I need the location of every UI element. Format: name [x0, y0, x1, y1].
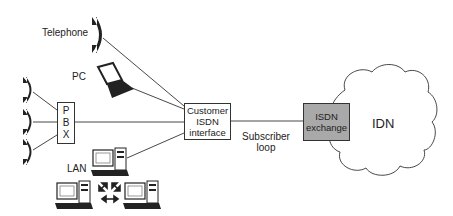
pbx-phone-3-link — [33, 135, 57, 150]
pc-link — [132, 88, 184, 109]
pbx-phone-icon-3 — [23, 139, 32, 165]
customer-interface-line-1: Customer — [187, 105, 228, 116]
subscriber-loop-line-2: loop — [242, 142, 290, 153]
pbx-label-b: B — [58, 117, 74, 129]
pbx-box: P B X — [57, 102, 75, 144]
laptop-icon — [98, 63, 134, 98]
isdn-exchange-line-2: exchange — [306, 122, 347, 133]
pc-label: PC — [72, 71, 86, 82]
pbx-phone-icon-1 — [23, 77, 32, 103]
pbx-label-p: P — [58, 105, 74, 117]
computer-icon-right — [123, 181, 161, 209]
pbx-label-x: X — [58, 129, 74, 141]
customer-interface-line-3: interface — [189, 127, 225, 138]
lan-link — [127, 133, 184, 158]
pbx-phone-icon-2 — [23, 109, 32, 135]
lan-arrows-icon — [99, 183, 120, 202]
customer-isdn-interface-box: Customer ISDN interface — [184, 103, 231, 140]
subscriber-loop-label: Subscriber loop — [242, 131, 290, 153]
idn-label: IDN — [372, 117, 394, 131]
pbx-phone-1-link — [33, 92, 57, 110]
telephone-icon — [92, 17, 102, 53]
lan-label: LAN — [67, 163, 86, 174]
isdn-exchange-line-1: ISDN — [315, 111, 338, 122]
computer-icon-top — [91, 148, 129, 176]
telephone-label: Telephone — [42, 27, 88, 38]
customer-interface-line-2: ISDN — [196, 116, 219, 127]
isdn-exchange-box: ISDN exchange — [303, 103, 350, 141]
subscriber-loop-line-1: Subscriber — [242, 131, 290, 142]
lan-computers — [55, 148, 161, 209]
computer-icon-left — [55, 181, 93, 209]
